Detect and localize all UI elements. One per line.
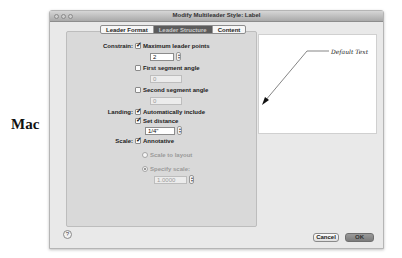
tab-leader-format[interactable]: Leader Format [101,26,154,33]
modify-multileader-style-dialog: Modify Multileader Style: Label Constrai… [49,10,384,249]
second-segment-angle-label: Second segment angle [143,87,208,93]
preview-default-text: Default Text [331,48,368,55]
set-distance-input[interactable]: 1/4" [145,127,175,135]
tab-content[interactable]: Content [213,26,246,33]
scale-to-layout-label: Scale to layout [150,152,192,158]
max-leader-points-input[interactable]: 2 [150,53,174,61]
tab-leader-structure[interactable]: Leader Structure [154,26,213,33]
second-segment-angle-select[interactable]: 0 [150,97,182,105]
max-leader-points-checkbox[interactable] [135,43,141,49]
set-distance-row[interactable]: Set distance [135,118,178,124]
title-bar[interactable]: Modify Multileader Style: Label [50,11,383,22]
first-segment-angle-row[interactable]: First segment angle [135,65,200,71]
automatically-include-checkbox[interactable] [135,109,141,115]
second-segment-angle-row[interactable]: Second segment angle [135,87,208,93]
settings-group-box: Constrain: Maximum leader points 2 ▴▾ Fi… [66,31,257,227]
constrain-label: Constrain: [93,43,133,49]
ok-button[interactable]: OK [345,233,374,242]
scale-label: Scale: [93,138,133,144]
specify-scale-radio[interactable] [142,166,148,172]
first-segment-angle-checkbox[interactable] [135,65,141,71]
specify-scale-stepper[interactable]: ▴▾ [189,175,194,184]
scale-to-layout-row[interactable]: Scale to layout [142,152,192,158]
first-segment-angle-select[interactable]: 0 [150,75,182,83]
automatically-include-row[interactable]: Automatically include [135,109,205,115]
max-leader-points-checkbox-row[interactable]: Maximum leader points [135,43,210,49]
annotative-checkbox[interactable] [135,138,141,144]
platform-label: Mac [11,116,39,133]
max-leader-points-label: Maximum leader points [143,43,210,49]
automatically-include-label: Automatically include [143,109,205,115]
set-distance-label: Set distance [143,118,178,124]
tab-bar: Leader Format Leader Structure Content [100,25,246,34]
second-segment-angle-checkbox[interactable] [135,87,141,93]
specify-scale-row[interactable]: Specify scale: [142,166,190,172]
help-button[interactable]: ? [63,230,72,239]
annotative-row[interactable]: Annotative [135,138,174,144]
first-segment-angle-label: First segment angle [143,65,200,71]
annotative-label: Annotative [143,138,174,144]
scale-to-layout-radio[interactable] [142,152,148,158]
max-leader-points-stepper[interactable]: ▴▾ [176,52,181,61]
set-distance-checkbox[interactable] [135,118,141,124]
cancel-button[interactable]: Cancel [313,233,339,242]
landing-label: Landing: [93,109,133,115]
specify-scale-input[interactable]: 1.0000 [154,176,187,184]
set-distance-stepper[interactable]: ▴▾ [177,126,182,135]
window-title: Modify Multileader Style: Label [50,12,383,18]
specify-scale-label: Specify scale: [150,166,190,172]
preview-pane: Default Text [258,34,377,134]
